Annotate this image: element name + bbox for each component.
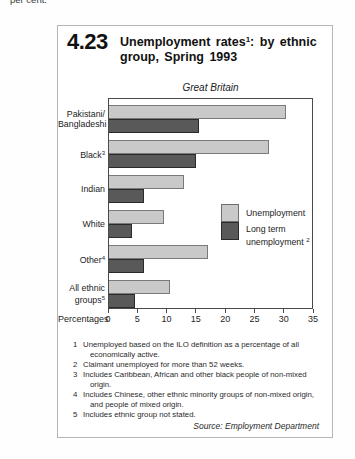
bar-unemployment — [109, 175, 184, 189]
category-footnote-marker: 4 — [102, 254, 105, 260]
x-axis-tick — [195, 309, 196, 313]
x-axis-tick — [313, 309, 314, 313]
region-label: Great Britain — [108, 82, 313, 93]
bar-unemployment — [109, 210, 164, 224]
category-label: Pakistani/Bangladeshi — [58, 108, 105, 129]
x-axis-tick — [108, 309, 109, 313]
x-axis-tick — [137, 309, 138, 313]
figure-box: 4.23 Unemployment rates1: by ethnic grou… — [57, 25, 333, 438]
x-axis-tick-label: 20 — [215, 314, 235, 324]
x-axis-tick — [283, 309, 284, 313]
bar-unemployment — [109, 280, 170, 294]
legend-footnote-marker: 2 — [306, 237, 309, 243]
footnote: 1Unemployed based on the ILO definition … — [73, 340, 325, 360]
footnote: 4Includes Chinese, other ethnic minority… — [73, 390, 325, 410]
footnote: 2Claimant unemployed for more than 52 we… — [73, 360, 325, 370]
legend: Unemployment Long termunemployment 2 — [221, 204, 321, 246]
category-label: All ethnic groups5 — [58, 282, 105, 305]
footnote-number: 5 — [73, 410, 77, 420]
bar-long-term-unemployment — [109, 224, 132, 238]
x-axis-tick-label: 25 — [244, 314, 264, 324]
legend-swatch-unemployment — [221, 204, 239, 222]
category-label: Indian — [58, 183, 105, 194]
category-label: White — [58, 218, 105, 229]
x-axis-tick — [166, 309, 167, 313]
footnote: 5Includes ethnic group not stated. — [73, 410, 325, 420]
legend-label-longterm-line1: Long term — [246, 224, 286, 234]
x-axis-tick-label: 0 — [98, 314, 118, 324]
bar-long-term-unemployment — [109, 189, 144, 203]
source-credit: Source: Employment Department — [193, 421, 319, 431]
bar-unemployment — [109, 245, 208, 259]
bar-long-term-unemployment — [109, 154, 196, 168]
footnote-number: 3 — [73, 370, 77, 380]
page: per cent. 4.23 Unemployment rates1: by e… — [0, 0, 355, 459]
footnote-number: 4 — [73, 390, 77, 400]
footnote-number: 2 — [73, 360, 77, 370]
footnote-text: Claimant unemployed for more than 52 wee… — [83, 360, 325, 370]
category-footnote-marker: 5 — [102, 295, 105, 301]
figure-number: 4.23 — [67, 29, 108, 55]
x-axis-tick — [254, 309, 255, 313]
x-axis-tick-label: 35 — [303, 314, 323, 324]
legend-label-unemployment: Unemployment — [246, 208, 305, 219]
footnote: 3Includes Caribbean, African and other b… — [73, 370, 325, 390]
bar-unemployment — [109, 105, 286, 119]
category-label: Black3 — [58, 147, 105, 160]
x-axis-tick-label: 15 — [186, 314, 206, 324]
figure-title-text: Unemployment rates — [120, 35, 246, 49]
category-footnote-marker: 3 — [102, 149, 105, 155]
bar-unemployment — [109, 140, 269, 154]
category-label: Other4 — [58, 252, 105, 265]
x-axis-tick-label: 10 — [157, 314, 177, 324]
bar-long-term-unemployment — [109, 259, 144, 273]
legend-swatch-longterm — [221, 222, 239, 240]
legend-label-longterm: Long termunemployment 2 — [246, 224, 310, 248]
bar-long-term-unemployment — [109, 294, 135, 308]
x-axis-tick-label: 5 — [127, 314, 147, 324]
footnote-text: Includes ethnic group not stated. — [83, 410, 325, 420]
footnotes: 1Unemployed based on the ILO definition … — [73, 340, 325, 420]
bar-long-term-unemployment — [109, 119, 199, 133]
legend-label-longterm-line2: unemployment — [246, 237, 306, 247]
page-header-text: per cent. — [10, 0, 47, 5]
footnote-number: 1 — [73, 340, 77, 350]
footnote-text: Includes Caribbean, African and other bl… — [83, 370, 325, 390]
footnote-text: Unemployed based on the ILO definition a… — [83, 340, 325, 360]
footnote-text: Includes Chinese, other ethnic minority … — [83, 390, 325, 410]
x-axis-tick — [225, 309, 226, 313]
x-axis-tick-label: 30 — [274, 314, 294, 324]
figure-title: Unemployment rates1: by ethnic group, Sp… — [120, 32, 333, 65]
